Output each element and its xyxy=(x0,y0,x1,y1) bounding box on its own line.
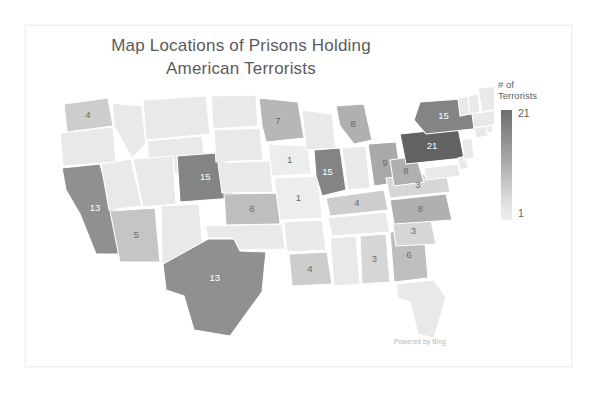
state-id[interactable] xyxy=(112,103,146,158)
state-ar[interactable] xyxy=(284,220,326,252)
state-me[interactable] xyxy=(478,86,494,112)
legend-min-value: 1 xyxy=(518,207,524,219)
state-ks[interactable] xyxy=(224,193,280,225)
state-al[interactable] xyxy=(360,234,390,284)
state-ms[interactable] xyxy=(330,236,360,286)
state-mi[interactable] xyxy=(336,104,372,144)
legend: # of Terrorists 21 1 xyxy=(498,79,568,222)
state-ne[interactable] xyxy=(218,161,273,193)
legend-title: # of Terrorists xyxy=(498,79,568,101)
state-mo[interactable] xyxy=(274,176,322,220)
state-wa[interactable] xyxy=(64,98,113,132)
us-map-svg[interactable]: 4135156137114158943638382115 xyxy=(34,86,494,358)
state-wi[interactable] xyxy=(302,110,336,150)
state-mt[interactable] xyxy=(143,96,210,140)
state-la[interactable] xyxy=(289,252,332,286)
choropleth-map[interactable]: 4135156137114158943638382115 Powered by … xyxy=(34,86,494,358)
state-ia[interactable] xyxy=(268,144,311,176)
legend-max-value: 21 xyxy=(518,107,530,119)
page-title: Map Locations of Prisons Holding America… xyxy=(26,34,456,80)
map-attribution: Powered by Bing xyxy=(394,338,446,345)
title-line-1: Map Locations of Prisons Holding xyxy=(26,34,456,57)
state-mn[interactable] xyxy=(259,98,304,142)
legend-gradient-bar xyxy=(501,110,512,220)
state-nh[interactable] xyxy=(468,94,480,114)
state-fl[interactable] xyxy=(396,280,446,338)
state-nd[interactable] xyxy=(211,95,258,129)
legend-title-line-2: Terrorists xyxy=(498,90,568,101)
state-in[interactable] xyxy=(342,146,370,190)
title-line-2: American Terrorists xyxy=(26,57,456,80)
legend-body: 21 1 xyxy=(498,110,568,222)
state-ky[interactable] xyxy=(326,190,388,216)
map-card: Map Locations of Prisons Holding America… xyxy=(25,25,572,367)
state-sd[interactable] xyxy=(214,128,263,162)
state-nj[interactable] xyxy=(462,138,474,160)
state-shapes-group[interactable] xyxy=(60,86,494,338)
legend-title-line-1: # of xyxy=(498,79,568,90)
state-or[interactable] xyxy=(60,127,116,166)
state-nc[interactable] xyxy=(390,194,452,224)
state-md[interactable] xyxy=(424,164,460,180)
